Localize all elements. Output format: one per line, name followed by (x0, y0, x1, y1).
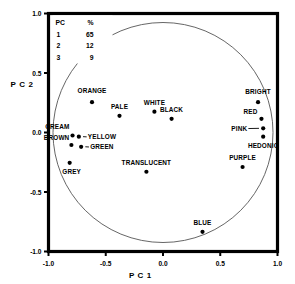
data-point-label: WHITE (144, 99, 166, 106)
data-point-label: RED (244, 108, 258, 115)
legend-row-percent: 65 (86, 31, 94, 38)
y-tick-label: 0.0 (32, 129, 41, 136)
x-axis-title: P C 1 (129, 271, 152, 280)
y-axis-title: P C 2 (11, 80, 34, 89)
data-point (90, 100, 94, 104)
data-point-label: TRANSLUCENT (122, 159, 172, 166)
data-point (240, 165, 244, 169)
data-point (152, 110, 156, 114)
chart-canvas: -1.0-0.50.00.51.01.00.50.0-0.5-1.0P C 1P… (0, 0, 295, 284)
x-tick-label: 0.5 (216, 260, 225, 267)
legend-row-percent: 9 (90, 54, 94, 61)
data-point-label: PALE (111, 103, 129, 110)
data-point (77, 135, 81, 139)
y-tick-label: -1.0 (30, 248, 42, 255)
data-point-label: GREY (62, 168, 81, 175)
data-point-label: BLUE (194, 219, 213, 226)
data-point (261, 126, 265, 130)
legend-header-percent: % (87, 19, 93, 26)
legend-header-component: PC (56, 19, 66, 26)
data-point-label: BROWN (44, 134, 70, 141)
data-point-label: CREAM (45, 123, 69, 130)
x-tick-label: 1.0 (273, 260, 282, 267)
y-tick-label: 1.0 (32, 10, 41, 17)
data-point-label: BRIGHT (245, 88, 270, 95)
data-point (169, 117, 173, 121)
data-point-label: PURPLE (229, 154, 256, 161)
legend-row-component: 3 (57, 54, 61, 61)
data-point-label: GREEN (90, 143, 114, 150)
data-point-label: ORANGE (78, 87, 108, 94)
x-tick-label: -0.5 (100, 260, 112, 267)
data-point-label: HEDONIC (248, 142, 279, 149)
x-tick-label: -1.0 (43, 260, 55, 267)
data-point (259, 117, 263, 121)
data-point (69, 143, 73, 147)
y-tick-label: 0.5 (32, 70, 41, 77)
legend-row-percent: 12 (86, 42, 94, 49)
data-point-label: YELLOW (88, 133, 117, 140)
y-tick-label: -0.5 (30, 189, 42, 196)
data-point (200, 230, 204, 234)
data-point (117, 114, 121, 118)
data-point (144, 170, 148, 174)
data-point-label: PINK (231, 125, 247, 132)
pca-loading-plot: -1.0-0.50.00.51.01.00.50.0-0.5-1.0P C 1P… (0, 0, 295, 284)
data-point (68, 161, 72, 165)
legend-row-component: 2 (57, 42, 61, 49)
data-point (256, 100, 260, 104)
data-point-label: BLACK (160, 106, 183, 113)
legend-row-component: 1 (57, 31, 61, 38)
data-point (261, 135, 265, 139)
x-tick-label: 0.0 (158, 260, 167, 267)
data-point (79, 145, 83, 149)
data-point (70, 133, 74, 137)
